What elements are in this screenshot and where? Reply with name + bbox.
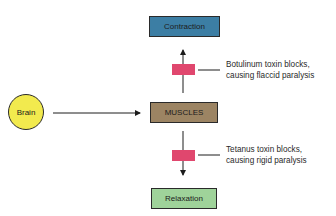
- botulinum-annotation: Botulinum toxin blocks, causing flaccid …: [226, 59, 314, 81]
- brain-node: Brain: [8, 94, 44, 130]
- tetanus-annotation-line1: Tetanus toxin blocks,: [226, 144, 307, 155]
- botulinum-annotation-line2: causing flaccid paralysis: [226, 70, 314, 81]
- brain-label: Brain: [17, 108, 36, 117]
- botulinum-annotation-line1: Botulinum toxin blocks,: [226, 59, 314, 70]
- relaxation-node: Relaxation: [151, 188, 217, 209]
- muscles-label: MUSCLES: [165, 108, 204, 117]
- botulinum-block-marker: [172, 64, 195, 75]
- tetanus-block-marker: [172, 150, 195, 161]
- muscles-node: MUSCLES: [150, 102, 218, 123]
- contraction-label: Contraction: [164, 22, 205, 31]
- relaxation-label: Relaxation: [165, 194, 203, 203]
- tetanus-annotation-line2: causing rigid paralysis: [226, 155, 307, 166]
- contraction-node: Contraction: [149, 16, 220, 37]
- tetanus-annotation: Tetanus toxin blocks, causing rigid para…: [226, 144, 307, 166]
